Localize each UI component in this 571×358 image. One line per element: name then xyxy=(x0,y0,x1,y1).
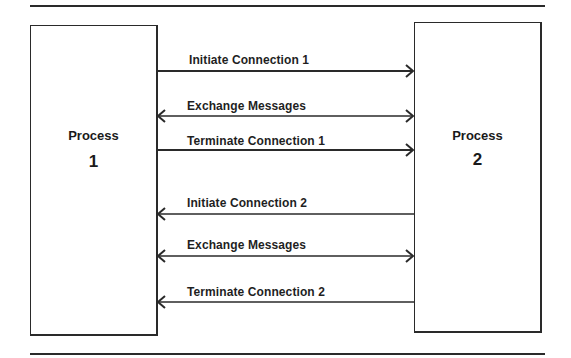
message-label-exchange-2: Exchange Messages xyxy=(187,238,306,252)
message-label-exchange-1: Exchange Messages xyxy=(187,99,306,113)
message-label-terminate-1: Terminate Connection 1 xyxy=(187,134,325,148)
message-label-terminate-2: Terminate Connection 2 xyxy=(187,285,325,299)
message-label-initiate-1: Initiate Connection 1 xyxy=(189,53,309,67)
message-label-initiate-2: Initiate Connection 2 xyxy=(187,196,307,210)
